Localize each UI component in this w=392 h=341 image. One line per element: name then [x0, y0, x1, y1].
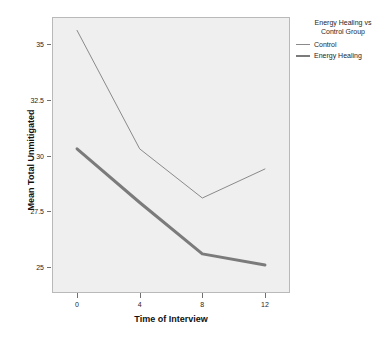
chart-figure: 2527.53032.535 04812 Mean Total Unmitiga…	[0, 0, 392, 341]
chart-plot-svg	[52, 17, 290, 293]
legend-item-label: Control	[314, 41, 337, 48]
x-tick-label: 0	[75, 301, 79, 308]
legend-title-line-2: Control Group	[296, 27, 390, 36]
y-tick-mark	[47, 156, 51, 157]
legend-title: Energy Healing vs Control Group	[296, 18, 390, 36]
series-line-energy-healing	[77, 149, 265, 265]
y-tick-mark	[47, 44, 51, 45]
x-tick-mark	[77, 293, 78, 298]
x-tick-label: 4	[138, 301, 142, 308]
y-tick-mark	[47, 211, 51, 212]
y-tick-mark	[47, 100, 51, 101]
legend-line-swatch-icon	[296, 55, 310, 57]
legend-item-energy-healing[interactable]: Energy Healing	[296, 52, 390, 59]
y-tick-mark	[47, 267, 51, 268]
x-axis-title: Time of Interview	[52, 314, 290, 324]
y-tick-label: 35	[10, 40, 44, 47]
chart-legend: Energy Healing vs Control Group ControlE…	[296, 18, 390, 63]
x-tick-mark	[140, 293, 141, 298]
legend-title-line-1: Energy Healing vs	[296, 18, 390, 27]
x-tick-mark	[265, 293, 266, 298]
y-tick-label: 25	[10, 264, 44, 271]
y-axis-title: Mean Total Unmitigated	[26, 80, 36, 240]
x-tick-label: 8	[200, 301, 204, 308]
legend-item-label: Energy Healing	[314, 52, 362, 59]
legend-entries: ControlEnergy Healing	[296, 41, 390, 59]
legend-line-swatch-icon	[296, 44, 310, 45]
x-tick-mark	[202, 293, 203, 298]
x-tick-label: 12	[261, 301, 269, 308]
legend-item-control[interactable]: Control	[296, 41, 390, 48]
